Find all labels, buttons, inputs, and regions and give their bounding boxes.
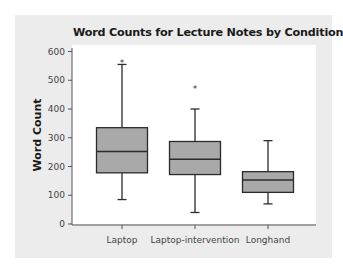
- x-tick-label: Laptop: [107, 235, 138, 245]
- y-tick-label: 200: [48, 162, 65, 172]
- y-tick-label: 500: [48, 75, 65, 85]
- y-tick-label: 600: [48, 47, 65, 57]
- box-longhand: [243, 172, 294, 193]
- box-laptop: [97, 128, 148, 173]
- y-tick-label: 400: [48, 104, 65, 114]
- x-tick-label: Laptop-intervention: [150, 235, 239, 245]
- y-tick-label: 100: [48, 190, 65, 200]
- y-tick-label: 0: [59, 219, 65, 229]
- outlier-marker: *: [193, 84, 198, 94]
- y-tick-label: 300: [48, 133, 65, 143]
- x-tick-label: Longhand: [246, 235, 290, 245]
- outlier-marker: *: [120, 58, 125, 68]
- plot-area: 0100200300400500600Laptop*Laptop-interve…: [0, 0, 343, 266]
- box-laptop-intervention: [170, 141, 221, 174]
